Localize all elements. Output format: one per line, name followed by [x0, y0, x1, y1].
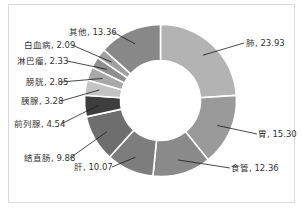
label-liver: 肝, 10.07 [74, 162, 113, 172]
label-pancreas: 胰腺, 3.28 [21, 96, 63, 106]
label-prostate: 前列腺, 4.54 [14, 119, 65, 129]
label-esophagus: 食管, 12.36 [231, 163, 279, 173]
label-leukemia: 白血病, 2.09 [24, 40, 75, 50]
label-lung: 肺, 23.93 [246, 38, 285, 48]
label-stomach: 胃, 15.30 [258, 129, 297, 139]
label-colorectal: 结直肠, 9.88 [24, 153, 75, 163]
label-other: 其他, 13.36 [69, 27, 117, 37]
label-bladder: 膀胱, 2.85 [26, 77, 68, 87]
label-lymphoma: 淋巴瘤, 2.33 [17, 56, 68, 66]
donut-slices [85, 24, 237, 176]
slice-lung [161, 25, 237, 98]
